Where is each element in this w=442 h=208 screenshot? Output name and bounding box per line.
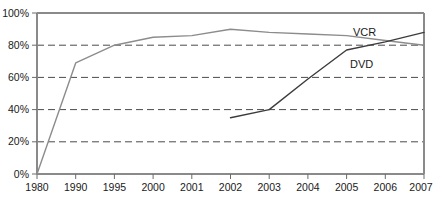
xtick-label-2004: 2004 [296, 181, 320, 193]
series-label-vcr: VCR [353, 26, 376, 38]
xtick-label-2007: 2007 [409, 181, 433, 193]
line-chart: 100% 80% 60% 40% 20% 0% 1980 1990 1995 2… [0, 0, 442, 208]
xtick-label-2002: 2002 [219, 181, 243, 193]
chart-canvas: 100% 80% 60% 40% 20% 0% 1980 1990 1995 2… [0, 0, 442, 208]
xtick-label-1990: 1990 [64, 181, 88, 193]
ytick-label-100: 100% [2, 7, 29, 19]
ytick-label-0: 0% [14, 168, 29, 180]
xtick-label-2006: 2006 [374, 181, 398, 193]
ytick-label-60: 60% [8, 71, 29, 83]
xtick-label-2003: 2003 [258, 181, 282, 193]
ytick-label-80: 80% [8, 39, 29, 51]
ytick-label-20: 20% [8, 135, 29, 147]
xtick-label-1995: 1995 [103, 181, 127, 193]
xtick-label-1980: 1980 [25, 181, 49, 193]
x-axis-labels: 1980 1990 1995 2000 2001 2002 2003 2004 … [25, 181, 433, 193]
ytick-label-40: 40% [8, 103, 29, 115]
xtick-label-2005: 2005 [335, 181, 359, 193]
series-label-dvd: DVD [350, 58, 373, 70]
xtick-label-2001: 2001 [180, 181, 204, 193]
y-axis-labels: 100% 80% 60% 40% 20% 0% [2, 7, 29, 180]
xtick-label-2000: 2000 [141, 181, 165, 193]
